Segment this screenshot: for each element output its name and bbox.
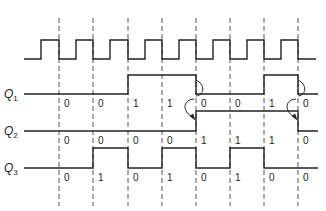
- waveform-q3: [24, 148, 318, 168]
- state-value-q3-4: 1: [167, 172, 173, 183]
- state-value-q1-1: 0: [64, 98, 70, 109]
- state-value-q3-3: 0: [133, 172, 139, 183]
- signal-subscript: 1: [13, 94, 18, 103]
- state-value-q2-6: 1: [235, 135, 241, 146]
- state-value-q3-7: 0: [269, 172, 275, 183]
- state-value-q1-5: 0: [201, 98, 207, 109]
- state-value-q2-2: 0: [98, 135, 104, 146]
- state-value-q3-5: 0: [201, 172, 207, 183]
- state-value-q1-7: 1: [269, 98, 275, 109]
- clock-waveform-group: [24, 40, 316, 59]
- state-value-q2-1: 0: [64, 135, 70, 146]
- state-value-q2-8: 0: [303, 135, 309, 146]
- state-value-q3-6: 1: [235, 172, 241, 183]
- state-value-q2-4: 0: [167, 135, 173, 146]
- clock-waveform: [24, 40, 316, 59]
- state-value-q1-8: 0: [303, 98, 309, 109]
- arrowhead-2: [292, 114, 297, 120]
- waveform-q2: [24, 111, 318, 131]
- state-value-q3-8: 0: [303, 172, 309, 183]
- state-value-q2-3: 0: [133, 135, 139, 146]
- state-value-q1-3: 1: [133, 98, 139, 109]
- state-value-q2-7: 1: [269, 135, 275, 146]
- state-value-q3-2: 1: [98, 172, 104, 183]
- state-value-q1-6: 0: [235, 98, 241, 109]
- timing-diagram-canvas: Q100110010Q200001110Q301010100: [0, 0, 326, 211]
- state-value-q1-4: 1: [167, 98, 173, 109]
- signal-name-q3: Q3: [4, 161, 18, 177]
- state-value-q2-5: 1: [201, 135, 207, 146]
- timing-diagram: Q100110010Q200001110Q301010100: [0, 0, 326, 211]
- signal-subscript: 3: [13, 168, 18, 177]
- state-value-q3-1: 0: [64, 172, 70, 183]
- signal-subscript: 2: [13, 131, 18, 140]
- arrowhead-1: [190, 114, 195, 120]
- signal-waveforms: [24, 75, 318, 168]
- signal-name-q2: Q2: [4, 124, 18, 140]
- waveform-q1: [24, 75, 318, 94]
- signal-name-q1: Q1: [4, 87, 18, 103]
- state-value-q1-2: 0: [98, 98, 104, 109]
